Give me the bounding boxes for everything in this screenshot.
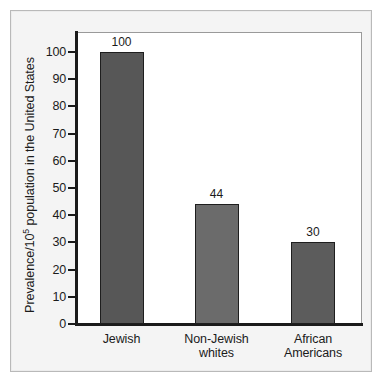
y-axis-title-prefix: Prevalence/10 [23, 234, 37, 313]
bar-value-label: 30 [283, 226, 343, 238]
y-axis-title-superscript: 5 [21, 229, 31, 234]
x-axis-label-line: Americans [253, 346, 373, 360]
y-tick-mark [68, 269, 76, 271]
y-tick-mark [68, 105, 76, 107]
bar-jewish[interactable] [100, 52, 144, 324]
figure-container: 0102030405060708090100 Prevalence/105 po… [0, 0, 392, 385]
y-tick-mark [68, 160, 76, 162]
bar-african-americans[interactable] [291, 242, 335, 324]
y-axis-spine [75, 31, 78, 326]
y-axis-title-suffix: population in the United States [23, 57, 37, 229]
bar-non-jewish-whites[interactable] [195, 204, 239, 324]
bar-value-label: 100 [92, 36, 152, 48]
y-tick-mark [68, 214, 76, 216]
y-tick-mark [68, 133, 76, 135]
y-tick-mark [68, 296, 76, 298]
y-tick-mark [68, 241, 76, 243]
y-tick-mark [68, 78, 76, 80]
y-tick-mark [68, 187, 76, 189]
y-tick-mark [68, 323, 76, 325]
y-axis-title: Prevalence/105 population in the United … [23, 40, 37, 330]
x-axis-label-line: African [253, 332, 373, 346]
bar-value-label: 44 [187, 188, 247, 200]
x-axis-label-2: AfricanAmericans [253, 332, 373, 360]
y-tick-mark [68, 51, 76, 53]
